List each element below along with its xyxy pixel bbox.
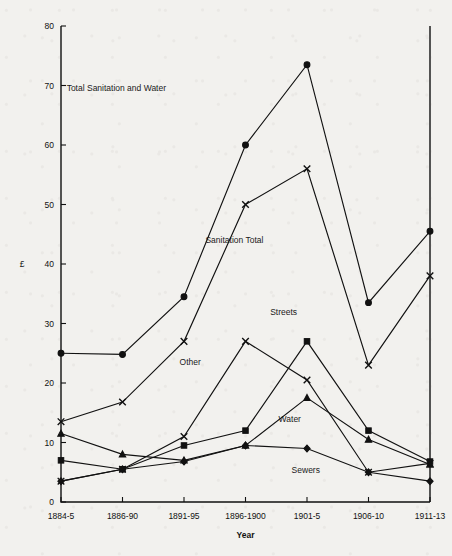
series-annotation-water: Water (279, 414, 302, 424)
marker-circle (181, 294, 187, 300)
marker-square (243, 428, 248, 433)
marker-square (58, 458, 63, 463)
marker-cross (181, 338, 188, 345)
marker-cross (119, 399, 126, 406)
marker-circle (58, 350, 64, 356)
series-polyline (61, 445, 430, 481)
y-tick-label: 30 (45, 319, 55, 329)
x-tick-label: 1906-10 (353, 511, 384, 521)
marker-circle (304, 62, 310, 68)
series-annotation-other: Other (180, 357, 201, 367)
marker-circle (120, 352, 126, 358)
x-tick-label: 1886-90 (107, 511, 138, 521)
marker-square (304, 339, 309, 344)
marker-diamond (181, 458, 187, 465)
marker-cross (304, 377, 311, 384)
marker-diamond (304, 445, 310, 452)
marker-triangle (304, 394, 310, 400)
marker-cross (365, 362, 372, 369)
series-total-sanitation-and-water (58, 62, 433, 358)
x-tick-label: 1901-5 (294, 511, 321, 521)
marker-circle (243, 142, 249, 148)
x-axis-title: Year (237, 530, 256, 540)
y-tick-label: 10 (45, 438, 55, 448)
series-polyline (61, 341, 430, 469)
x-tick-label: 1884-5 (48, 511, 75, 521)
chart-container: 01020304050607080£1884-51886-901891-9518… (0, 0, 452, 556)
series-annotation-total-sanitation-and-water: Total Sanitation and Water (67, 83, 167, 93)
y-tick-label: 20 (45, 378, 55, 388)
series-annotation-streets: Streets (270, 307, 297, 317)
x-tick-label: 1911-13 (415, 511, 446, 521)
marker-triangle (58, 430, 64, 436)
y-tick-label: 50 (45, 200, 55, 210)
x-tick-label: 1891-95 (168, 511, 199, 521)
series-sewers (58, 442, 433, 485)
y-tick-label: 0 (49, 497, 54, 507)
series-polyline (61, 341, 430, 481)
y-tick-label: 80 (45, 21, 55, 31)
series-polyline (61, 65, 430, 355)
marker-circle (366, 300, 372, 306)
line-chart: 01020304050607080£1884-51886-901891-9518… (0, 0, 452, 556)
series-annotation-sewers: Sewers (292, 465, 320, 475)
marker-square (366, 428, 371, 433)
x-tick-label: 1896-1900 (225, 511, 266, 521)
marker-cross (242, 338, 249, 345)
series-sanitation-total (58, 166, 434, 425)
y-tick-label: 60 (45, 140, 55, 150)
y-axis-title: £ (20, 259, 25, 269)
series-other (58, 338, 434, 484)
y-tick-label: 70 (45, 81, 55, 91)
marker-triangle (365, 436, 371, 442)
marker-cross (304, 166, 311, 173)
marker-square (181, 443, 186, 448)
marker-cross (181, 433, 188, 440)
y-tick-label: 40 (45, 259, 55, 269)
series-annotation-sanitation-total: Sanitation Total (205, 235, 263, 245)
marker-circle (427, 228, 433, 234)
marker-diamond (427, 478, 433, 485)
marker-cross (242, 201, 249, 208)
